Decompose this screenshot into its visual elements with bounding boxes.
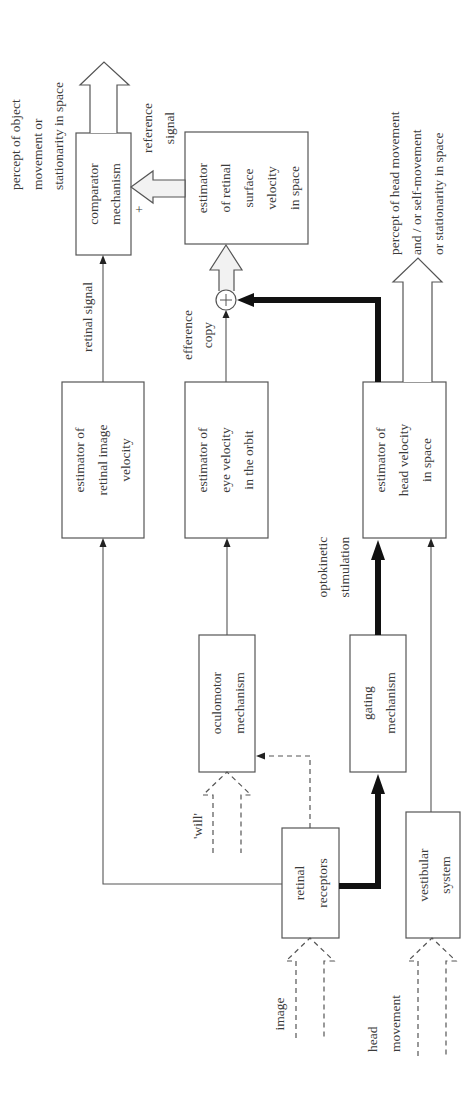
receptors-to-oculomotor-dashed-arrow [256, 753, 310, 829]
box-estimator-head-velocity: estimator of head velocity in space [363, 382, 446, 538]
retinal-signal-arrow [100, 255, 107, 382]
label-image: image [272, 998, 287, 1031]
percept-head-output-arrow [393, 258, 442, 382]
label-will: 'will' [190, 813, 205, 839]
box-label: of retinal [218, 163, 233, 212]
motion-perception-diagram: comparator mechanism estimator of retina… [0, 0, 468, 1109]
box-label: estimator of [72, 427, 87, 492]
box-label: mechanism [383, 672, 398, 734]
svg-text:optokinetic: optokinetic [315, 537, 330, 598]
box-estimator-eye-velocity: estimator of eye velocity in the orbit [185, 382, 268, 538]
box-label: comparator [86, 163, 101, 225]
image-input-dashed-arrow [286, 938, 334, 1038]
box-retinal-receptors: retinal receptors [282, 828, 339, 938]
box-label: velocity [264, 166, 279, 210]
svg-text:copy: copy [200, 322, 215, 348]
box-oculomotor-mechanism: oculomotor mechanism [199, 635, 255, 772]
reference-signal-arrow [131, 171, 185, 203]
box-label: retinal [292, 866, 307, 901]
svg-text:reference: reference [140, 103, 155, 153]
vestibular-to-head-estimator-arrow [428, 538, 435, 812]
head-movement-input-dashed-arrow [408, 938, 456, 1056]
box-label: mechanism [232, 672, 247, 734]
head-estimator-to-sum-thick-arrow [237, 293, 378, 382]
svg-text:stationarity in space: stationarity in space [51, 82, 66, 190]
box-label: velocity [118, 438, 133, 482]
will-input-dashed-arrow [203, 772, 251, 853]
box-label: retinal image [95, 425, 110, 496]
box-label: in space [287, 166, 302, 210]
box-label: receptors [315, 858, 330, 907]
receptors-to-gating-thick-arrow [339, 774, 385, 886]
svg-text:movement or: movement or [30, 118, 45, 190]
box-label: surface [241, 169, 256, 208]
label-head-movement: head movement [365, 995, 403, 1052]
box-label: estimator [195, 162, 210, 213]
sum-to-surface-estimator-arrow [210, 245, 242, 291]
percept-object-output-arrow [80, 62, 129, 133]
label-efference-copy: efference copy [180, 310, 215, 360]
box-gating-mechanism: gating mechanism [350, 635, 406, 772]
label-reference-signal: reference signal [140, 103, 177, 153]
svg-text:and / or self-movement: and / or self-movement [409, 129, 424, 255]
box-label: in space [419, 438, 434, 482]
box-label: head velocity [396, 424, 411, 497]
svg-text:or stationarity in space: or stationarity in space [431, 132, 446, 255]
box-label: oculomotor [209, 671, 224, 734]
svg-text:percept of object: percept of object [8, 99, 23, 190]
label-optokinetic-stimulation: optokinetic stimulation [315, 536, 352, 597]
label-percept-head: percept of head movement and / or self-m… [387, 111, 446, 255]
box-label: eye velocity [218, 427, 233, 493]
box-label: gating [360, 686, 375, 720]
optokinetic-thick-arrow [371, 540, 385, 635]
svg-text:stimulation: stimulation [337, 536, 352, 597]
box-label: estimator of [195, 427, 210, 492]
efference-copy-arrow [223, 310, 230, 382]
label-plus-sign: + [135, 202, 143, 217]
svg-text:signal: signal [162, 112, 177, 144]
box-label: system [438, 856, 453, 894]
box-vestibular-system: vestibular system [406, 812, 460, 938]
box-label: vestibular [416, 848, 431, 902]
box-comparator-mechanism: comparator mechanism [76, 133, 131, 255]
svg-text:percept of head movement: percept of head movement [387, 111, 402, 255]
box-label: in the orbit [241, 430, 256, 489]
oculomotor-to-eye-estimator-arrow [224, 538, 231, 635]
summing-junction [216, 290, 236, 310]
box-label: mechanism [108, 163, 123, 225]
label-retinal-signal: retinal signal [80, 282, 95, 352]
label-percept-object: percept of object movement or stationari… [8, 82, 66, 190]
svg-text:movement: movement [388, 995, 403, 1052]
svg-text:head: head [365, 1026, 380, 1052]
box-estimator-retinal-surface-velocity: estimator of retinal surface velocity in… [185, 132, 308, 244]
box-estimator-retinal-image-velocity: estimator of retinal image velocity [62, 382, 144, 538]
box-label: estimator of [373, 427, 388, 492]
svg-text:efference: efference [180, 310, 195, 360]
